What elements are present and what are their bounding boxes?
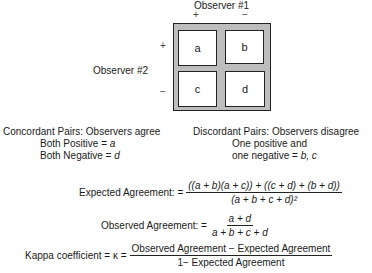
observed-numerator: a + d (227, 213, 254, 226)
concordant-both-negative: Both Negative = d (40, 150, 120, 161)
one-negative-label: one negative = (232, 150, 301, 161)
expected-agreement-label: Expected Agreement: = (79, 187, 183, 198)
observed-denominator: a + b + c + d (210, 226, 270, 238)
var-b-c: b, c (301, 150, 317, 161)
observer-1-label: Observer #1 (194, 0, 249, 11)
var-d: d (114, 150, 120, 161)
concordant-title: Concordant Pairs: Observers agree (3, 126, 160, 137)
contingency-table: a b c d (173, 23, 271, 111)
discordant-line1: One positive and (232, 138, 307, 149)
kappa-label: Kappa coefficient = κ = (25, 250, 127, 261)
observed-agreement-formula: Observed Agreement: = a + d a + b + c + … (101, 213, 270, 238)
observed-fraction: a + d a + b + c + d (210, 213, 270, 238)
kappa-formula: Kappa coefficient = κ = Observed Agreeme… (25, 243, 332, 268)
both-positive-label: Both Positive = (40, 138, 110, 149)
cell-d: d (225, 71, 265, 107)
row-sign-negative: − (160, 86, 166, 97)
col-sign-negative: − (242, 9, 248, 20)
kappa-denominator: 1− Expected Agreement (175, 256, 286, 268)
discordant-title: Discordant Pairs: Observers disagree (193, 126, 359, 137)
discordant-line2: one negative = b, c (232, 150, 317, 161)
observed-agreement-label: Observed Agreement: = (101, 220, 207, 231)
cell-a: a (178, 30, 217, 66)
concordant-both-positive: Both Positive = a (40, 138, 115, 149)
both-negative-label: Both Negative = (40, 150, 114, 161)
var-a: a (110, 138, 116, 149)
row-sign-positive: + (160, 40, 166, 51)
col-sign-positive: + (193, 9, 199, 20)
cell-b: b (225, 30, 264, 64)
expected-numerator: ((a + b)(a + c)) + ((c + d) + (b + d)) (186, 180, 342, 193)
cell-c: c (178, 71, 217, 107)
expected-fraction: ((a + b)(a + c)) + ((c + d) + (b + d)) (… (186, 180, 342, 205)
kappa-fraction: Observed Agreement − Expected Agreement … (130, 243, 333, 268)
expected-denominator: (a + b + c + d)² (229, 193, 299, 205)
kappa-numerator: Observed Agreement − Expected Agreement (130, 243, 333, 256)
observer-2-label: Observer #2 (93, 65, 148, 76)
expected-agreement-formula: Expected Agreement: = ((a + b)(a + c)) +… (79, 180, 342, 205)
